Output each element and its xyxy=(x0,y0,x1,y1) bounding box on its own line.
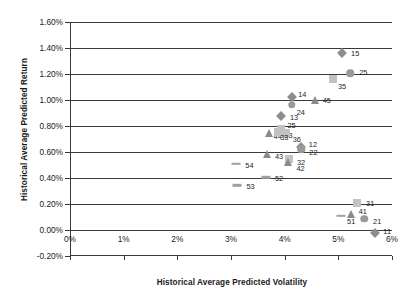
data-point-label: 14 xyxy=(298,90,306,99)
data-point-marker xyxy=(265,129,273,137)
y-axis-tick-label: 0.60% xyxy=(39,147,63,157)
data-point-marker xyxy=(329,75,337,83)
data-point-label: 43 xyxy=(275,151,283,160)
y-axis-tick xyxy=(65,74,70,75)
x-axis-tick-label: 5% xyxy=(332,234,344,244)
gridline xyxy=(70,74,392,75)
x-axis-tick xyxy=(124,256,125,260)
data-point-marker xyxy=(288,101,296,109)
gridline xyxy=(70,230,392,231)
data-point-marker xyxy=(232,162,241,164)
y-axis-title: Historical Average Predicted Return xyxy=(20,30,29,230)
data-point-marker xyxy=(233,184,242,186)
data-point-marker xyxy=(346,70,354,78)
y-axis-tick-label: 1.00% xyxy=(39,95,63,105)
data-point-marker xyxy=(360,215,368,223)
data-point-label: 25 xyxy=(359,68,367,77)
data-point-marker xyxy=(261,176,270,178)
data-point-label: 41 xyxy=(359,206,367,215)
data-point-marker xyxy=(298,146,306,154)
gridline xyxy=(70,178,392,179)
x-axis-tick-label: 4% xyxy=(279,234,291,244)
data-point-label: 35 xyxy=(338,82,346,91)
y-axis-tick-label: 0.80% xyxy=(39,121,63,131)
data-point-marker xyxy=(263,150,271,158)
y-axis-tick-label: 1.40% xyxy=(39,43,63,53)
y-axis-tick-label: 1.20% xyxy=(39,69,63,79)
y-axis-tick xyxy=(65,22,70,23)
data-point-label: 42 xyxy=(296,163,304,172)
data-point-label: 33 xyxy=(280,132,288,141)
data-point-label: 15 xyxy=(351,48,359,57)
gridline xyxy=(70,22,392,23)
data-point-marker xyxy=(284,158,292,166)
data-point-label: 21 xyxy=(373,216,381,225)
data-point-label: 52 xyxy=(275,174,283,183)
data-point-label: 22 xyxy=(309,148,317,157)
data-point-label: 45 xyxy=(323,96,331,105)
y-axis-tick-label: -0.20% xyxy=(37,251,63,261)
data-point-marker xyxy=(311,96,319,104)
gridline xyxy=(70,204,392,205)
data-point-label: 11 xyxy=(383,227,391,236)
y-axis-tick xyxy=(65,230,70,231)
data-point-label: 13 xyxy=(290,112,298,121)
x-axis-title: Historical Average Predicted Volatility xyxy=(70,278,394,287)
x-axis-tick-label: 0% xyxy=(64,234,76,244)
y-axis-tick xyxy=(65,48,70,49)
gridline xyxy=(70,152,392,153)
x-axis-tick xyxy=(70,256,71,260)
y-axis-tick-label: 0.20% xyxy=(39,199,63,209)
y-axis-tick-label: 1.60% xyxy=(39,17,63,27)
x-axis-tick xyxy=(285,256,286,260)
data-point-label: 31 xyxy=(366,199,374,208)
scatter-chart: Historical Average Predicted Return Hist… xyxy=(0,0,410,301)
y-axis-tick xyxy=(65,204,70,205)
x-axis-tick-label: 2% xyxy=(171,234,183,244)
gridline xyxy=(70,100,392,101)
data-point-marker xyxy=(337,214,346,216)
y-axis-tick-label: 0.40% xyxy=(39,173,63,183)
y-axis-tick xyxy=(65,178,70,179)
y-axis-tick xyxy=(65,126,70,127)
y-axis-line xyxy=(70,22,71,256)
x-axis-tick xyxy=(231,256,232,260)
x-axis-tick xyxy=(392,256,393,260)
plot-area: 1.60%1.40%1.20%1.00%0.80%0.60%0.40%0.20%… xyxy=(70,22,392,256)
y-axis-tick-label: 0.00% xyxy=(39,225,63,235)
data-point-marker xyxy=(276,111,286,121)
x-axis-tick xyxy=(177,256,178,260)
x-axis-tick-label: 3% xyxy=(225,234,237,244)
data-point-label: 51 xyxy=(347,216,355,225)
y-axis-tick xyxy=(65,100,70,101)
gridline xyxy=(70,126,392,127)
data-point-marker xyxy=(337,48,347,58)
data-point-label: 53 xyxy=(246,182,254,191)
x-axis-tick xyxy=(338,256,339,260)
data-point-label: 54 xyxy=(245,160,253,169)
y-axis-tick xyxy=(65,152,70,153)
x-axis-tick-label: 1% xyxy=(118,234,130,244)
